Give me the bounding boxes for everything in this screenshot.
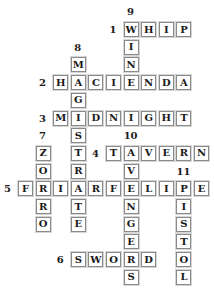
crossword-cell[interactable]: I	[124, 40, 139, 55]
crossword-cell[interactable]: N	[124, 199, 139, 214]
clue-number: 8	[70, 40, 86, 55]
crossword-cell[interactable]: E	[124, 75, 139, 90]
crossword-cell[interactable]: H	[141, 22, 156, 37]
crossword-cell[interactable]: O	[36, 217, 51, 232]
crossword-cell[interactable]: O	[176, 252, 191, 267]
crossword-cell[interactable]: E	[124, 181, 139, 196]
crossword-cell[interactable]: T	[71, 146, 86, 161]
crossword-cell[interactable]: T	[106, 146, 121, 161]
crossword-cell[interactable]: I	[53, 181, 68, 196]
crossword-cell[interactable]: L	[141, 181, 156, 196]
crossword-cell[interactable]: E	[159, 146, 174, 161]
crossword-cell[interactable]: G	[124, 217, 139, 232]
clue-number: 11	[175, 164, 191, 179]
crossword-cell[interactable]: S	[176, 217, 191, 232]
crossword-cell[interactable]: A	[71, 181, 86, 196]
crossword-cell[interactable]: S	[71, 128, 86, 143]
crossword-grid: WHIPHACIENDAMIDNIGHTTAVERNFRIARFELIPESWO…	[0, 0, 214, 295]
crossword-cell[interactable]: R	[36, 181, 51, 196]
crossword-cell[interactable]: R	[124, 252, 139, 267]
crossword-cell[interactable]: L	[176, 270, 191, 285]
crossword-cell[interactable]: A	[124, 146, 139, 161]
crossword-cell[interactable]: F	[18, 181, 33, 196]
crossword-cell[interactable]: N	[106, 111, 121, 126]
clue-number: 7	[35, 128, 51, 143]
crossword-cell[interactable]: M	[53, 111, 68, 126]
crossword-cell[interactable]: S	[124, 270, 139, 285]
crossword-cell[interactable]: I	[106, 75, 121, 90]
clue-number: 10	[123, 128, 139, 143]
crossword-cell[interactable]: E	[71, 217, 86, 232]
crossword-cell[interactable]: D	[141, 252, 156, 267]
clue-number: 4	[87, 146, 103, 161]
crossword-cell[interactable]: I	[159, 181, 174, 196]
crossword-cell[interactable]: O	[106, 252, 121, 267]
crossword-cell[interactable]: T	[71, 199, 86, 214]
crossword-cell[interactable]: F	[106, 181, 121, 196]
clue-number: 9	[123, 4, 139, 19]
crossword-cell[interactable]: D	[159, 75, 174, 90]
crossword-cell[interactable]: G	[71, 93, 86, 108]
crossword-cell[interactable]: R	[71, 164, 86, 179]
crossword-cell[interactable]: M	[71, 57, 86, 72]
crossword-cell[interactable]: V	[124, 164, 139, 179]
crossword-cell[interactable]: I	[71, 111, 86, 126]
crossword-cell[interactable]: R	[88, 181, 103, 196]
crossword-cell[interactable]: E	[194, 181, 209, 196]
crossword-cell[interactable]: I	[124, 111, 139, 126]
crossword-cell[interactable]: N	[141, 75, 156, 90]
crossword-cell[interactable]: O	[36, 164, 51, 179]
crossword-cell[interactable]: T	[176, 111, 191, 126]
crossword-cell[interactable]: E	[124, 234, 139, 249]
crossword-cell[interactable]: A	[71, 75, 86, 90]
crossword-cell[interactable]: T	[176, 234, 191, 249]
crossword-cell[interactable]: H	[53, 75, 68, 90]
crossword-cell[interactable]: W	[88, 252, 103, 267]
crossword-cell[interactable]: G	[141, 111, 156, 126]
clue-number: 3	[35, 111, 51, 126]
crossword-cell[interactable]: H	[159, 111, 174, 126]
crossword-cell[interactable]: A	[176, 75, 191, 90]
crossword-cell[interactable]: N	[124, 57, 139, 72]
crossword-cell[interactable]: I	[176, 199, 191, 214]
crossword-cell[interactable]: C	[88, 75, 103, 90]
crossword-cell[interactable]: R	[36, 199, 51, 214]
clue-number: 6	[52, 252, 68, 267]
crossword-cell[interactable]: I	[159, 22, 174, 37]
crossword-cell[interactable]: P	[176, 22, 191, 37]
crossword-cell[interactable]: V	[141, 146, 156, 161]
crossword-cell[interactable]: W	[124, 22, 139, 37]
crossword-cell[interactable]: N	[194, 146, 209, 161]
crossword-cell[interactable]: P	[176, 181, 191, 196]
crossword-cell[interactable]: D	[88, 111, 103, 126]
clue-number: 2	[35, 75, 51, 90]
clue-number: 5	[0, 181, 15, 196]
crossword-cell[interactable]: S	[71, 252, 86, 267]
crossword-cell[interactable]: Z	[36, 146, 51, 161]
clue-number: 1	[105, 22, 121, 37]
crossword-cell[interactable]: R	[176, 146, 191, 161]
